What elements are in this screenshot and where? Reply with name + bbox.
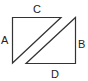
label-a: A bbox=[1, 34, 9, 46]
label-b: B bbox=[78, 38, 85, 50]
right-triangle bbox=[26, 18, 76, 64]
label-c: C bbox=[33, 3, 41, 15]
label-d: D bbox=[51, 68, 59, 80]
left-triangle bbox=[13, 18, 62, 64]
triangle-diagram: C A B D bbox=[0, 0, 88, 81]
